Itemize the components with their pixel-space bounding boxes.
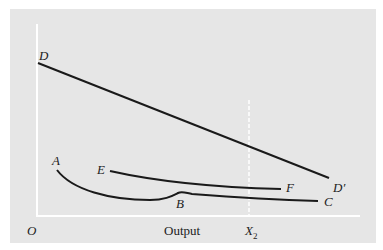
curve-ef [110,171,281,189]
diagram-svg [0,0,383,250]
x2-label: X2 [245,224,257,241]
label-f: F [286,181,294,194]
label-d-prime: D′ [333,181,345,194]
x-axis-label: Output [164,224,200,237]
curve-dd-prime [38,63,329,178]
label-c: C [324,195,333,208]
label-d: D [39,49,48,62]
label-b: B [176,197,184,210]
x2-label-subscript: 2 [253,231,258,241]
label-e: E [97,163,105,176]
origin-label: O [27,224,36,237]
label-a: A [52,154,60,167]
x2-label-main: X [245,223,253,238]
